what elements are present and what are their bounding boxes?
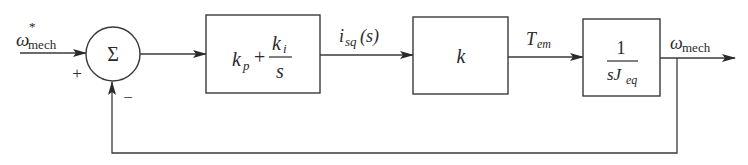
plus-sign: + (72, 64, 82, 83)
current-signal-label: i sq (s) (339, 26, 379, 49)
svg-text:em: em (537, 37, 551, 51)
svg-text:i: i (339, 26, 344, 46)
svg-text:k: k (457, 45, 467, 67)
sigma-symbol: Σ (107, 43, 119, 65)
svg-text:i: i (283, 41, 287, 56)
svg-text:sJ: sJ (607, 65, 623, 84)
output-signal-label: ω mech (670, 33, 711, 55)
summing-junction: Σ (86, 27, 140, 81)
pi-controller-block: k p + k i s (206, 15, 320, 93)
svg-text:p: p (242, 58, 250, 73)
block-diagram: ω * mech Σ + − k p + k i s i sq (s) k T … (0, 0, 748, 165)
mechanical-plant-block: 1 sJ eq (583, 19, 660, 96)
svg-text:s: s (276, 60, 284, 82)
svg-text:mech: mech (28, 37, 57, 52)
svg-text:sq: sq (345, 34, 357, 49)
svg-text:(s): (s) (360, 26, 379, 47)
input-signal-label: ω * mech (16, 19, 57, 52)
svg-text:ω: ω (670, 33, 683, 53)
svg-text:+: + (254, 46, 265, 68)
svg-text:mech: mech (682, 40, 711, 55)
svg-text:*: * (29, 19, 36, 34)
torque-constant-block: k (413, 17, 508, 94)
minus-sign: − (123, 88, 133, 107)
svg-text:1: 1 (617, 38, 626, 58)
svg-text:k: k (232, 48, 242, 70)
svg-text:eq: eq (626, 73, 637, 87)
torque-signal-label: T em (526, 29, 551, 51)
svg-text:k: k (272, 32, 282, 54)
